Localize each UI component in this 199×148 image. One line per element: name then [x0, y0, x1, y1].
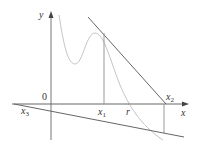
- root-label: r: [126, 107, 130, 117]
- x-axis-arrow-icon: [182, 102, 189, 107]
- y-axis-label: y: [39, 10, 43, 20]
- x3-sub: 3: [25, 110, 29, 118]
- diagram-canvas: [0, 0, 199, 148]
- x2-sub: 2: [170, 96, 174, 104]
- x1-label: x1: [98, 107, 106, 119]
- x2-label: x2: [166, 92, 174, 104]
- newton-method-diagram: y x 0 x1 r x2 x3: [0, 0, 199, 148]
- origin-label: 0: [42, 92, 47, 102]
- x3-label: x3: [21, 106, 29, 118]
- y-axis-arrow-icon: [49, 11, 54, 18]
- function-curve: [59, 15, 163, 140]
- x-axis-label: x: [181, 108, 185, 118]
- tangent-line-x1: [88, 17, 166, 104]
- x1-sub: 1: [102, 111, 106, 119]
- root-point: [128, 103, 130, 105]
